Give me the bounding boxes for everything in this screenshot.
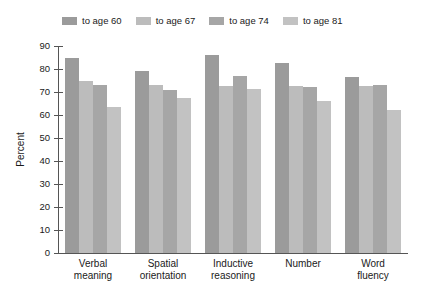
bar[interactable] <box>317 101 331 253</box>
x-axis-category-label-line: reasoning <box>183 270 283 282</box>
bar[interactable] <box>387 110 401 253</box>
legend-swatch-icon <box>136 17 151 25</box>
y-axis-tick-label: 30 <box>39 179 50 189</box>
bar-group <box>205 46 261 253</box>
y-axis-tick-label: 60 <box>39 110 50 120</box>
x-axis-category-label: Wordfluency <box>323 258 422 282</box>
y-axis-tick-mark <box>54 115 63 116</box>
y-axis-tick-mark <box>54 138 63 139</box>
y-axis-line <box>58 46 59 253</box>
bar-group <box>135 46 191 253</box>
bar-group <box>65 46 121 253</box>
bar[interactable] <box>345 77 359 253</box>
bar[interactable] <box>163 90 177 253</box>
bar-group <box>275 46 331 253</box>
x-axis-category-label-line: fluency <box>323 270 422 282</box>
legend-entry[interactable]: to age 60 <box>62 16 122 26</box>
legend-swatch-icon <box>209 17 224 25</box>
bar[interactable] <box>373 85 387 253</box>
bar[interactable] <box>107 107 121 253</box>
bar[interactable] <box>359 86 373 253</box>
legend-entry[interactable]: to age 67 <box>136 16 196 26</box>
bar[interactable] <box>79 81 93 254</box>
y-axis-tick-label: 10 <box>39 225 50 235</box>
legend-swatch-icon <box>283 17 298 25</box>
x-axis-category-label-line: Word <box>323 258 422 270</box>
y-axis-tick-label: 70 <box>39 87 50 97</box>
legend-entry[interactable]: to age 74 <box>209 16 269 26</box>
y-axis-tick-mark <box>54 253 63 254</box>
legend-label: to age 60 <box>82 16 122 26</box>
bar[interactable] <box>149 85 163 253</box>
y-axis-tick-label: 0 <box>45 248 50 258</box>
bar[interactable] <box>135 71 149 253</box>
bar[interactable] <box>289 86 303 253</box>
y-axis-tick-label: 80 <box>39 64 50 74</box>
y-axis-tick-mark <box>54 207 63 208</box>
y-axis-tick-mark <box>54 46 63 47</box>
bar[interactable] <box>205 55 219 253</box>
x-axis-category-labels: VerbalmeaningSpatialorientationInductive… <box>58 258 408 290</box>
y-axis-tick-label: 90 <box>39 41 50 51</box>
legend-entry[interactable]: to age 81 <box>283 16 343 26</box>
bar[interactable] <box>275 63 289 253</box>
bar[interactable] <box>247 89 261 253</box>
bar[interactable] <box>303 87 317 253</box>
bar[interactable] <box>177 98 191 253</box>
legend-label: to age 67 <box>156 16 196 26</box>
y-axis-tick-mark <box>54 92 63 93</box>
y-axis-tick-label: 20 <box>39 202 50 212</box>
y-axis-tick-mark <box>54 161 63 162</box>
plot-area: 0102030405060708090 <box>58 46 408 253</box>
bar-group <box>345 46 401 253</box>
legend-label: to age 81 <box>303 16 343 26</box>
y-axis-tick-mark <box>54 184 63 185</box>
legend-label: to age 74 <box>229 16 269 26</box>
legend-swatch-icon <box>62 17 77 25</box>
x-axis-line <box>58 253 408 254</box>
bar[interactable] <box>93 85 107 253</box>
y-axis-tick-mark <box>54 69 63 70</box>
bar[interactable] <box>233 76 247 253</box>
bar[interactable] <box>65 58 79 254</box>
y-axis-tick-mark <box>54 230 63 231</box>
bar[interactable] <box>219 86 233 253</box>
y-axis-tick-label: 50 <box>39 133 50 143</box>
chart-legend: to age 60to age 67to age 74to age 81 <box>62 14 412 28</box>
bar-chart: to age 60to age 67to age 74to age 81 Per… <box>0 0 422 305</box>
y-axis-tick-label: 40 <box>39 156 50 166</box>
y-axis-title: Percent <box>14 46 28 253</box>
